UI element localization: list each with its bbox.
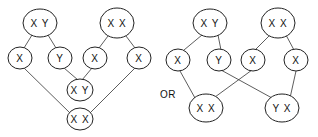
node-label: X — [292, 55, 300, 66]
node-label: X Y — [201, 18, 220, 29]
right-edges — [180, 35, 296, 98]
edge-r-xy-to-x1 — [184, 35, 202, 50]
node-label: Y — [215, 55, 223, 66]
edge-r-xy-to-y — [218, 35, 221, 50]
node-l-parent-xx: X X — [100, 8, 134, 38]
node-l-gamete-x3: X — [127, 47, 151, 69]
edge-l-xy-to-x1 — [24, 35, 32, 48]
node-label: X — [249, 55, 257, 66]
or-label: OR — [160, 89, 176, 100]
node-label: Y — [56, 53, 64, 64]
node-label: X — [135, 53, 143, 64]
edge-r-x1-to-offxx — [180, 71, 195, 98]
node-l-gamete-x2: X — [83, 47, 107, 69]
node-l-offspring-xx: X X — [67, 108, 93, 130]
node-r-gamete-x3: X — [284, 49, 308, 71]
node-l-parent-xy: X Y — [23, 9, 57, 37]
edge-l-x3-to-offxx — [90, 68, 135, 113]
node-r-gamete-y: Y — [207, 49, 231, 71]
edge-l-xx-to-x3 — [126, 36, 135, 48]
node-label: X Y — [31, 18, 50, 29]
node-label: X X — [196, 103, 215, 114]
edge-r-x2-to-offxx — [215, 70, 252, 97]
node-label: X — [91, 53, 99, 64]
node-r-gamete-x1: X — [166, 49, 190, 71]
node-r-offspring-yx: Y X — [265, 94, 299, 122]
node-l-gamete-y: Y — [48, 47, 72, 69]
edge-r-xx-to-x3 — [286, 35, 294, 50]
node-r-gamete-x2: X — [241, 49, 265, 71]
node-l-offspring-xy: X Y — [67, 79, 93, 101]
edge-l-x2-to-offxy — [82, 68, 92, 80]
node-r-offspring-xx: X X — [189, 94, 223, 122]
node-l-gamete-x1: X — [8, 47, 32, 69]
node-label: X X — [268, 18, 287, 29]
node-label: Y X — [273, 103, 292, 114]
edge-r-x3-to-offyx — [290, 71, 296, 98]
edge-l-y-to-offxy — [64, 68, 78, 80]
node-r-parent-xx: X X — [261, 8, 295, 38]
inheritance-diagram: X Y X X X Y X X X Y X X OR X Y X X X — [0, 0, 318, 137]
node-r-parent-xy: X Y — [193, 9, 227, 37]
node-label: X — [174, 55, 182, 66]
edge-l-xx-to-x2 — [99, 36, 108, 48]
edge-r-xx-to-x2 — [255, 35, 270, 50]
node-label: X Y — [71, 85, 90, 96]
node-label: X X — [107, 18, 126, 29]
node-label: X X — [70, 114, 89, 125]
edge-l-xy-to-y — [48, 35, 56, 48]
edge-l-x1-to-offxx — [24, 68, 70, 113]
node-label: X — [16, 53, 24, 64]
